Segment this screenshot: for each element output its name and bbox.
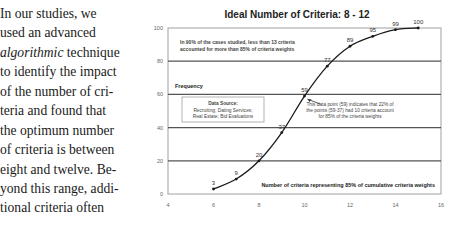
- x-tick-label: 10: [301, 202, 307, 208]
- x-tick-label: 12: [347, 202, 353, 208]
- data-point-marker: [212, 188, 215, 191]
- top-annotation-line: accounted for more than 85% of criteria …: [180, 46, 294, 52]
- data-point-label: 9: [235, 170, 239, 176]
- data-point-marker: [371, 35, 374, 38]
- y-axis-label: Frequency: [175, 83, 204, 89]
- y-tick-label: 100: [154, 25, 163, 31]
- point-annotation-line: This data point (59) indicates that 22% …: [306, 102, 394, 107]
- y-tick-label: 0: [160, 191, 163, 197]
- chart-canvas: 02040608010046810121416Ideal Number of C…: [0, 0, 455, 226]
- data-point-marker: [349, 45, 352, 48]
- data-point-label: 99: [392, 21, 399, 27]
- data-point-marker: [235, 178, 238, 181]
- data-point-label: 100: [413, 19, 424, 25]
- data-point-label: 37: [278, 124, 285, 130]
- y-tick-label: 40: [157, 125, 163, 131]
- x-tick-label: 4: [166, 202, 169, 208]
- x-tick-label: 16: [438, 202, 444, 208]
- y-tick-label: 20: [157, 158, 163, 164]
- chart-title: Ideal Number of Criteria: 8 - 12: [224, 9, 369, 20]
- x-tick-label: 14: [392, 202, 398, 208]
- y-tick-label: 60: [157, 91, 163, 97]
- data-point-label: 3: [212, 180, 216, 186]
- data-point-label: 77: [324, 57, 331, 63]
- data-point-marker: [394, 28, 397, 31]
- ideal-criteria-chart: 02040608010046810121416Ideal Number of C…: [0, 0, 455, 226]
- y-tick-label: 80: [157, 58, 163, 64]
- x-tick-label: 6: [212, 202, 215, 208]
- data-source-line: Recruiting; Dating Services;: [193, 108, 252, 113]
- point-annotation-line: for 85% of the criteria weights: [318, 114, 382, 119]
- data-point-label: 95: [369, 27, 376, 33]
- data-point-label: 89: [347, 37, 354, 43]
- data-point-label: 59: [301, 87, 308, 93]
- data-point-marker: [303, 95, 306, 98]
- x-tick-label: 8: [257, 202, 260, 208]
- data-point-marker: [280, 131, 283, 134]
- data-point-label: 20: [256, 152, 263, 158]
- data-point-marker: [258, 159, 261, 162]
- top-annotation-line: In 90% of the cases studied, less than 1…: [180, 39, 295, 45]
- x-axis-label: Number of criteria representing 85% of c…: [261, 182, 435, 188]
- data-point-marker: [326, 65, 329, 68]
- data-point-marker: [417, 27, 420, 30]
- data-source-line: Real Estate; Bid Evaluations: [193, 114, 254, 119]
- point-annotation-line: the points (59-37) had 10 criteria accou…: [306, 108, 394, 113]
- data-source-line: Data Source:: [208, 101, 238, 106]
